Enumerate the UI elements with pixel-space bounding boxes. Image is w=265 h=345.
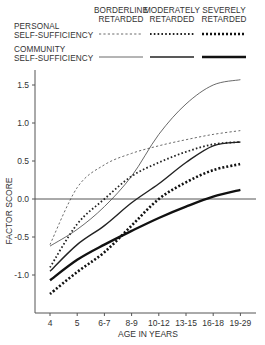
x-tick-label: 10-12 <box>148 318 170 328</box>
y-tick-label: 1.0 <box>17 118 29 128</box>
y-tick-label: 1.5 <box>17 80 29 90</box>
x-axis-label: AGE IN YEARS <box>118 329 178 339</box>
series-line-personal-severe <box>50 164 240 294</box>
legend-row-label: COMMUNITY <box>14 45 66 54</box>
y-tick-label: -1.0 <box>14 270 29 280</box>
x-tick-label: 6-7 <box>98 318 111 328</box>
legend: BORDERLINERETARDEDMODERATELYRETARDEDSEVE… <box>14 6 247 63</box>
x-tick-label: 4 <box>48 318 53 328</box>
x-tick-label: 13-15 <box>175 318 197 328</box>
legend-column-header: RETARDED <box>201 15 246 24</box>
legend-column-header: BORDERLINE <box>94 6 149 15</box>
legend-row-label: PERSONAL <box>14 22 60 31</box>
y-axis-label: FACTOR SCORE <box>4 177 14 244</box>
legend-column-header: SEVERELY <box>202 6 246 15</box>
series-line-personal-moderate <box>50 142 240 267</box>
y-tick-label: -0.5 <box>14 232 29 242</box>
x-tick-label: 16-18 <box>202 318 224 328</box>
series-line-community-moderate <box>50 142 240 271</box>
legend-column-header: RETARDED <box>149 15 194 24</box>
series-line-personal-borderline <box>50 131 240 245</box>
series-line-community-severe <box>50 190 240 280</box>
x-tick-label: 5 <box>75 318 80 328</box>
legend-column-header: RETARDED <box>98 15 143 24</box>
x-tick-label: 19-29 <box>230 318 252 328</box>
y-tick-label: 0.0 <box>17 194 29 204</box>
legend-column-header: MODERATELY <box>144 6 201 15</box>
legend-row-label: SELF-SUFFICIENCY <box>14 54 94 63</box>
series-group <box>50 80 240 294</box>
chart: BORDERLINERETARDEDMODERATELYRETARDEDSEVE… <box>0 0 265 345</box>
legend-row-label: SELF-SUFFICIENCY <box>14 31 94 40</box>
x-tick-label: 8-9 <box>125 318 138 328</box>
y-tick-label: 0.5 <box>17 156 29 166</box>
